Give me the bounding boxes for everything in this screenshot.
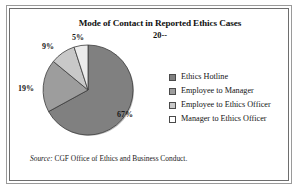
legend-label: Manager to Ethics Officer xyxy=(181,114,267,124)
legend-swatch-icon xyxy=(169,102,176,109)
legend-label: Employee to Manager xyxy=(181,86,254,96)
chart-figure: Mode of Contact in Reported Ethics Cases… xyxy=(0,0,298,190)
legend-item-employee-to-manager[interactable]: Employee to Manager xyxy=(169,84,289,98)
chart-legend: Ethics Hotline Employee to Manager Emplo… xyxy=(169,70,289,126)
legend-label: Employee to Ethics Officer xyxy=(181,100,271,110)
pie-label-employee-to-ethics-officer: 9% xyxy=(42,42,54,51)
pie-label-ethics-hotline: 67% xyxy=(117,110,133,119)
chart-subtitle: 20-- xyxy=(60,30,260,41)
source-text: CGF Office of Ethics and Business Conduc… xyxy=(55,154,188,163)
source-note: Source: CGF Office of Ethics and Busines… xyxy=(30,154,187,163)
source-label: Source: xyxy=(30,154,53,163)
pie-label-employee-to-manager: 19% xyxy=(18,84,34,93)
pie-chart xyxy=(41,38,135,140)
chart-title: Mode of Contact in Reported Ethics Cases xyxy=(60,18,260,29)
legend-item-employee-to-ethics-officer[interactable]: Employee to Ethics Officer xyxy=(169,98,289,112)
legend-swatch-icon xyxy=(169,88,176,95)
legend-swatch-icon xyxy=(169,74,176,81)
legend-label: Ethics Hotline xyxy=(181,72,228,82)
legend-item-ethics-hotline[interactable]: Ethics Hotline xyxy=(169,70,289,84)
pie-svg xyxy=(41,38,135,140)
pie-label-manager-to-ethics-officer: 5% xyxy=(72,33,84,42)
chart-title-block: Mode of Contact in Reported Ethics Cases… xyxy=(60,18,260,41)
legend-item-manager-to-ethics-officer[interactable]: Manager to Ethics Officer xyxy=(169,112,289,126)
legend-swatch-icon xyxy=(169,116,176,123)
